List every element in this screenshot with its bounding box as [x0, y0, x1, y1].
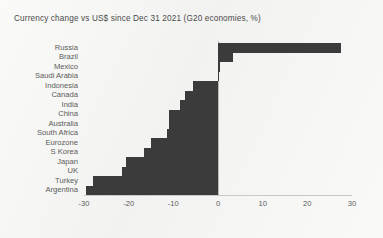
bar-row: Canada [84, 91, 352, 101]
bar [86, 186, 218, 196]
bar [169, 119, 218, 129]
bar-row: Japan [84, 157, 352, 167]
bar-row: UK [84, 167, 352, 177]
category-label: Mexico [54, 63, 78, 71]
x-axis-tick-label: 30 [348, 200, 356, 208]
x-axis-tick-label: 20 [303, 200, 311, 208]
bar-row: Argentina [84, 186, 352, 196]
bar-row: Saudi Arabia [84, 72, 352, 82]
bar-row: Indonesia [84, 81, 352, 91]
bar [122, 167, 218, 177]
bar [144, 148, 218, 158]
category-label: Turkey [55, 177, 78, 185]
category-label: Eurozone [45, 139, 78, 147]
bar-row: Australia [84, 119, 352, 129]
chart-title: Currency change vs US$ since Dec 31 2021… [14, 14, 261, 23]
bar [193, 81, 218, 91]
bar [180, 100, 218, 110]
category-label: Japan [57, 158, 78, 166]
category-label: Saudi Arabia [35, 72, 78, 80]
bar-row: Eurozone [84, 138, 352, 148]
x-axis-tick-label: 10 [258, 200, 266, 208]
bar-row: China [84, 110, 352, 120]
bar [218, 62, 220, 72]
bar [167, 129, 218, 139]
bar [218, 72, 219, 82]
x-axis-tick-label: -30 [79, 200, 90, 208]
bar [218, 43, 341, 53]
category-label: China [58, 110, 78, 118]
bar [169, 110, 218, 120]
chart-figure: Currency change vs US$ since Dec 31 2021… [0, 0, 383, 238]
bar [93, 176, 218, 186]
category-label: Argentina [45, 186, 78, 194]
bar-row: Russia [84, 43, 352, 53]
bar [151, 138, 218, 148]
bar-row: Mexico [84, 62, 352, 72]
bar-row: Brazil [84, 53, 352, 63]
bar [185, 91, 219, 101]
x-axis-tick-label: -20 [123, 200, 134, 208]
category-label: India [62, 101, 78, 109]
bar [126, 157, 218, 167]
category-label: Indonesia [45, 82, 78, 90]
x-axis-tick-label: 0 [216, 200, 220, 208]
bar [218, 53, 233, 63]
plot-area: RussiaBrazilMexicoSaudi ArabiaIndonesiaC… [84, 43, 352, 195]
category-label: Australia [48, 120, 78, 128]
category-label: Canada [51, 91, 78, 99]
category-label: S Korea [51, 148, 78, 156]
bar-row: South Africa [84, 129, 352, 139]
x-axis-tick-label: -10 [168, 200, 179, 208]
category-label: South Africa [37, 129, 78, 137]
bar-row: Turkey [84, 176, 352, 186]
category-label: Brazil [59, 53, 78, 61]
category-label: Russia [55, 44, 78, 52]
bar-row: S Korea [84, 148, 352, 158]
bar-row: India [84, 100, 352, 110]
category-label: UK [67, 167, 78, 175]
